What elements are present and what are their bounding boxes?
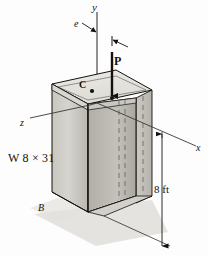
centroid-marker: [90, 89, 94, 93]
eccentricity-leader: [82, 23, 96, 32]
column-web-face: [88, 98, 136, 212]
centroid-label: C: [79, 80, 86, 90]
load-offset-leader: [113, 40, 128, 47]
eccentricity-label: e: [74, 19, 78, 29]
load-label: P: [114, 55, 121, 67]
base-point-label: B: [38, 203, 44, 213]
axis-z-label: z: [20, 118, 24, 128]
section-designation-label: W 8 × 31: [8, 152, 54, 164]
diagram-canvas: [0, 0, 208, 255]
axis-x-label: x: [196, 143, 200, 153]
height-dimension-label: 8 ft: [154, 184, 169, 195]
load-point-marker: [110, 96, 114, 100]
column-diagram: y e P C z x W 8 × 31 8 ft B: [0, 0, 208, 255]
column-back-flange: [136, 90, 152, 203]
axis-y-label: y: [92, 2, 97, 13]
